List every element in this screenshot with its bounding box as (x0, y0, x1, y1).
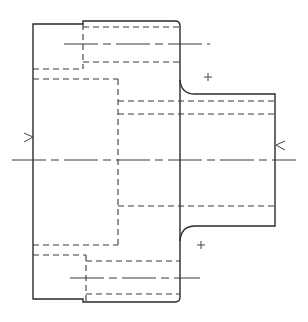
part-outline (33, 21, 275, 302)
upper-plus-mark-icon (204, 73, 212, 81)
right-section-arrow-icon (276, 141, 285, 150)
technical-drawing (0, 0, 308, 322)
lower-plus-mark-icon (197, 241, 205, 249)
left-section-arrow-icon (24, 133, 33, 142)
